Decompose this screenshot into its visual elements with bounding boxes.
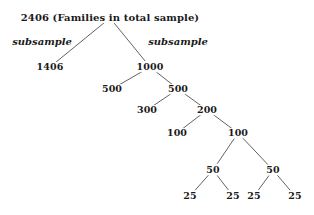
- tree-node: 500: [101, 84, 123, 94]
- tree-node: 200: [196, 105, 218, 115]
- tree-node: 300: [136, 105, 158, 115]
- tree-node: 1000: [136, 62, 165, 72]
- tree-edge: [278, 175, 290, 190]
- tree-edge: [195, 175, 208, 190]
- tree-node: 25: [182, 191, 197, 201]
- tree-node: 50: [205, 165, 220, 175]
- tree-edge: [114, 23, 145, 60]
- tree-node: 500: [167, 84, 189, 94]
- tree-node: 25: [246, 191, 261, 201]
- tree-node: 100: [166, 128, 188, 138]
- tree-node: 25: [225, 191, 240, 201]
- tree-diagram-figure: 2406 (Families in total sample)140610005…: [0, 0, 314, 215]
- tree-edge: [243, 138, 268, 164]
- tree-node: 100: [227, 128, 249, 138]
- tree-node: 50: [265, 165, 280, 175]
- tree-root-node: 2406 (Families in total sample): [20, 13, 200, 23]
- tree-edge: [259, 176, 269, 190]
- tree-edge-label: subsample: [148, 37, 208, 47]
- tree-edge: [183, 114, 201, 128]
- tree-edge-label: subsample: [12, 37, 72, 47]
- tree-edge: [217, 176, 228, 190]
- tree-edge: [217, 139, 234, 164]
- tree-edge: [156, 71, 172, 84]
- tree-edge: [213, 114, 232, 128]
- tree-node: 25: [287, 191, 302, 201]
- tree-edge: [119, 71, 144, 85]
- tree-node: 1406: [36, 62, 65, 72]
